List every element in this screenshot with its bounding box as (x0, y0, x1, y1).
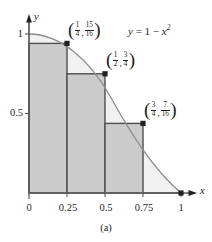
fraction-y-2: 3 4 (123, 52, 129, 69)
fraction-y-3: 7 16 (161, 102, 170, 119)
x-axis-name: x (200, 186, 205, 197)
paren-open: ( (68, 23, 74, 37)
fraction-x-2: 1 2 (113, 52, 119, 69)
point-label-quarter: ( 1 4 , 15 16 ) (68, 22, 101, 39)
y-axis-name: y (34, 12, 39, 23)
equation-minus: − (153, 25, 159, 37)
equation-equals: = (136, 25, 142, 37)
paren-close: ) (129, 53, 135, 67)
label-comma: , (119, 59, 122, 69)
fraction-y-1: 15 16 (85, 22, 94, 39)
figure-riemann-sum-lower: y x 1 0.5 0 0.25 0.5 0.75 1 ( 1 4 , 15 1… (0, 0, 212, 242)
point-marker-half (102, 71, 107, 76)
y-tick-label-1: 1 (9, 29, 23, 40)
point-label-threequarter: ( 3 4 , 7 16 ) (144, 102, 177, 119)
bar-2 (67, 74, 105, 193)
label-comma: , (157, 109, 160, 119)
y-axis-arrowhead (26, 14, 32, 23)
y-tick-label-0-5: 0.5 (3, 108, 23, 119)
x-tick-label-0: 0 (26, 203, 31, 214)
x-axis-arrowhead (189, 190, 198, 196)
x-tick-label-0-5: 0.5 (99, 203, 112, 214)
equation-rhs-constant: 1 (145, 25, 151, 37)
bar-3 (105, 123, 143, 193)
point-marker-quarter (64, 41, 69, 46)
curve-equation: y = 1 − x2 (128, 24, 170, 37)
equation-lhs: y (128, 25, 133, 37)
bar-1 (29, 43, 67, 193)
figure-caption: (a) (0, 222, 212, 233)
point-label-half: ( 1 2 , 3 4 ) (106, 52, 135, 69)
equation-exponent: 2 (167, 23, 171, 32)
fraction-x-1: 1 4 (75, 22, 81, 39)
point-marker-one (178, 190, 183, 195)
x-tick-label-1: 1 (178, 203, 183, 214)
paren-close: ) (94, 23, 100, 37)
paren-open: ( (144, 103, 150, 117)
x-tick-label-0-75: 0.75 (135, 203, 153, 214)
label-comma: , (81, 29, 84, 39)
paren-close: ) (170, 103, 176, 117)
paren-open: ( (106, 53, 112, 67)
x-tick-label-0-25: 0.25 (59, 203, 77, 214)
fraction-x-3: 3 4 (151, 102, 157, 119)
point-marker-threequarter (140, 121, 145, 126)
